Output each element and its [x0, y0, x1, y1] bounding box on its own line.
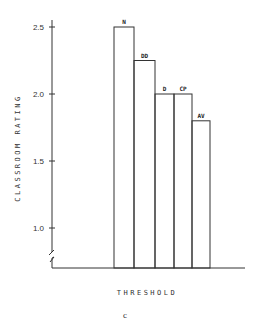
bar-chart: 1.01.52.02.5 NDDDCPAV CLASSROOM RATING T… [0, 0, 258, 323]
y-tick-label: 2.5 [33, 23, 45, 32]
bars [114, 27, 210, 268]
bar-d [155, 94, 174, 268]
y-tick-label: 2.0 [33, 90, 45, 99]
bar-av [192, 121, 210, 268]
bar-dd [134, 61, 155, 269]
bar-label-n: N [122, 18, 126, 25]
bar-label-dd: DD [141, 52, 149, 59]
bar-label-cp: CP [179, 85, 187, 92]
bar-label-d: D [163, 85, 167, 92]
bar-cp [174, 94, 192, 268]
axes: 1.01.52.02.5 [33, 20, 245, 268]
y-tick-label: 1.5 [33, 157, 45, 166]
bar-label-av: AV [197, 112, 205, 119]
x-axis-title: THRESHOLD [117, 289, 177, 297]
bar-n [114, 27, 134, 268]
y-tick-label: 1.0 [33, 224, 45, 233]
figure-caption: c [123, 310, 127, 320]
y-axis-title: CLASSROOM RATING [14, 94, 22, 201]
axis-break-mark [49, 250, 54, 268]
bar-labels: NDDDCPAV [122, 18, 205, 119]
